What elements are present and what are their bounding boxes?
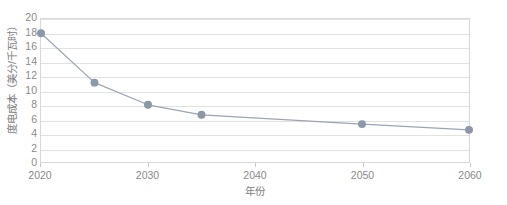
data-point-marker (358, 120, 366, 128)
y-tick-label: 16 (16, 40, 37, 53)
line-series-svg (41, 19, 469, 162)
x-tick-mark (470, 163, 471, 167)
y-tick-label: 8 (16, 98, 37, 111)
data-point-marker (198, 111, 206, 119)
series-line (41, 33, 469, 130)
chart-figure: 度电成本（美分/千瓦时） 02468101214161820 202020302… (0, 0, 507, 205)
y-tick-label: 18 (16, 26, 37, 39)
x-tick-label: 2040 (232, 168, 278, 182)
y-tick-label: 2 (16, 142, 37, 155)
data-point-marker (144, 101, 152, 109)
x-tick-label: 2020 (17, 168, 63, 182)
y-axis-tick-labels: 02468101214161820 (16, 18, 37, 163)
x-tick-label: 2030 (125, 168, 171, 182)
y-tick-label: 6 (16, 113, 37, 126)
x-tick-label: 2050 (340, 168, 386, 182)
x-tick-mark (40, 163, 41, 167)
data-point-marker (465, 126, 473, 134)
x-tick-mark (363, 163, 364, 167)
y-tick-label: 12 (16, 69, 37, 82)
y-tick-label: 4 (16, 127, 37, 140)
plot-area (40, 18, 470, 163)
x-tick-label: 2060 (447, 168, 493, 182)
y-tick-label: 20 (16, 11, 37, 24)
x-tick-mark (148, 163, 149, 167)
x-tick-mark (255, 163, 256, 167)
x-axis-title: 年份 (40, 184, 470, 198)
y-tick-label: 10 (16, 84, 37, 97)
x-axis-tick-labels: 20202030204020502060 (40, 168, 470, 182)
data-point-marker (37, 29, 45, 37)
data-point-marker (91, 79, 99, 87)
y-tick-label: 14 (16, 55, 37, 68)
